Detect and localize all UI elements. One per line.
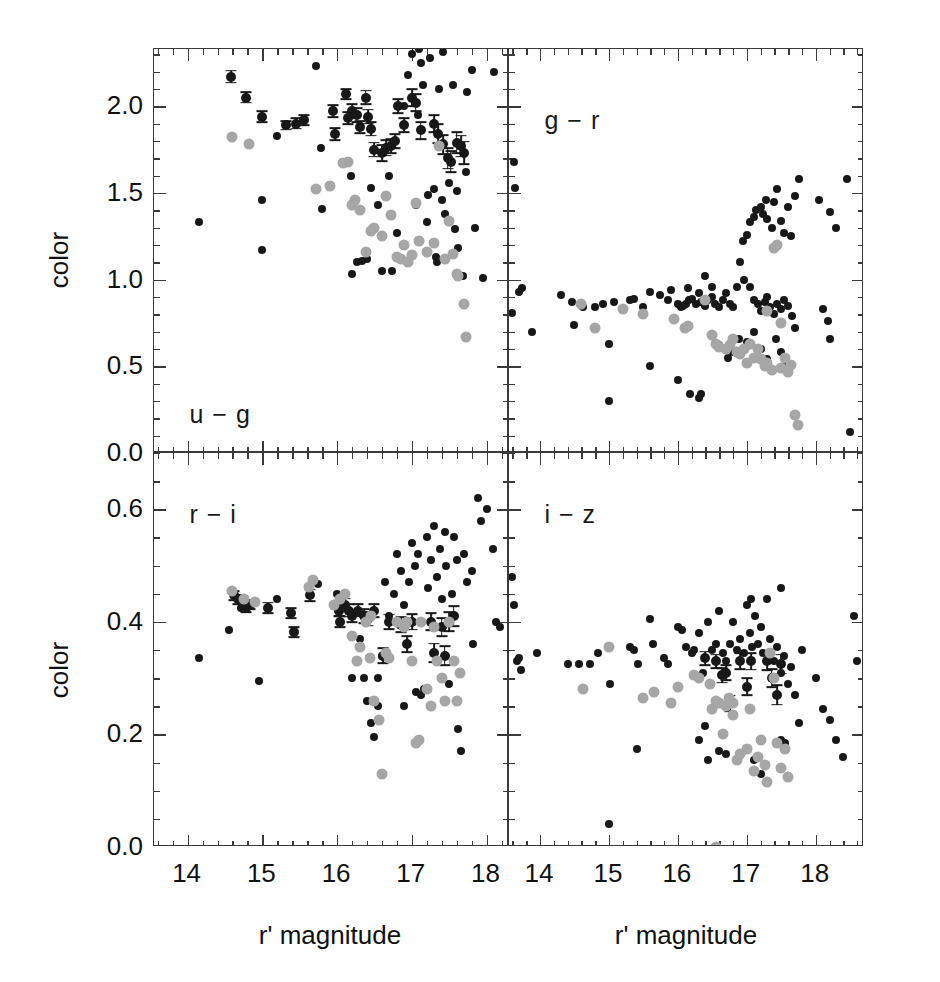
- x-tick-top: [247, 453, 248, 459]
- data-point: [390, 590, 398, 598]
- x-tick-top: [262, 49, 263, 61]
- y-tick-left: [154, 819, 160, 820]
- data-point: [400, 601, 408, 609]
- x-tick-bottom: [262, 835, 263, 846]
- x-tick-top: [526, 49, 527, 55]
- data-point: [772, 690, 782, 700]
- data-point: [722, 750, 730, 758]
- data-point: [605, 340, 613, 348]
- x-tick-bottom: [203, 841, 204, 846]
- error-bar-cap: [225, 82, 236, 84]
- plot-area: g − r: [509, 49, 862, 451]
- data-point: [777, 217, 785, 225]
- data-point: [459, 298, 470, 309]
- y-tick-label: 0.6: [75, 493, 143, 524]
- x-tick-top: [554, 49, 555, 55]
- y-tick-left: [509, 650, 515, 651]
- data-point: [697, 390, 705, 398]
- data-point: [427, 556, 435, 564]
- x-tick-top: [232, 453, 233, 459]
- data-point: [557, 291, 565, 299]
- x-tick-top: [568, 49, 569, 55]
- y-tick-right: [852, 622, 863, 623]
- x-tick-bottom: [678, 441, 679, 452]
- x-tick-label: 15: [593, 858, 622, 889]
- data-point: [736, 258, 744, 266]
- y-tick-right: [858, 418, 863, 419]
- x-tick-top: [788, 453, 789, 459]
- data-point: [406, 656, 417, 667]
- data-point: [780, 743, 791, 754]
- data-point: [367, 184, 375, 192]
- x-tick-top: [487, 49, 488, 61]
- y-tick-left: [509, 193, 521, 194]
- data-point: [243, 139, 254, 150]
- plot-panel-top-left: u − g: [153, 48, 508, 452]
- data-point: [763, 215, 771, 223]
- y-tick-left: [509, 678, 515, 679]
- y-tick-left: [154, 210, 160, 211]
- data-point: [739, 237, 747, 245]
- data-point: [416, 125, 426, 135]
- data-point: [510, 158, 518, 166]
- x-tick-top: [203, 453, 204, 459]
- x-tick-top: [487, 453, 488, 465]
- x-tick-bottom: [540, 441, 541, 452]
- x-axis-title-left: r' magnitude: [259, 920, 401, 951]
- x-tick-top: [637, 49, 638, 55]
- x-tick-top: [322, 453, 323, 459]
- x-tick-top: [733, 453, 734, 459]
- data-point: [441, 528, 449, 536]
- error-bar-cap: [406, 88, 417, 90]
- x-tick-top: [581, 49, 582, 55]
- data-point: [374, 674, 382, 682]
- data-point: [769, 673, 780, 684]
- x-tick-top: [277, 453, 278, 459]
- data-point: [785, 359, 796, 370]
- x-tick-top: [650, 49, 651, 55]
- x-tick-top: [595, 49, 596, 55]
- data-point: [695, 629, 703, 637]
- error-bar-cap: [429, 114, 440, 116]
- x-tick-top: [262, 453, 263, 465]
- x-tick-bottom: [442, 841, 443, 846]
- y-tick-left: [154, 418, 160, 419]
- data-point: [444, 616, 455, 627]
- data-point: [423, 533, 431, 541]
- error-bar-cap: [381, 155, 392, 157]
- data-point: [722, 657, 730, 665]
- data-point: [759, 760, 770, 771]
- x-tick-bottom: [472, 841, 473, 846]
- data-point: [762, 196, 770, 204]
- x-tick-top: [830, 49, 831, 55]
- data-point: [324, 180, 335, 191]
- error-bar-cap: [734, 668, 745, 670]
- data-point: [634, 660, 642, 668]
- y-tick-right: [852, 366, 863, 367]
- data-point: [750, 213, 758, 221]
- data-point: [599, 300, 607, 308]
- error-bar-cap: [329, 139, 340, 141]
- data-point: [469, 640, 477, 648]
- data-point: [605, 397, 613, 405]
- y-tick-left: [154, 678, 160, 679]
- x-tick-top: [554, 453, 555, 459]
- data-point: [490, 68, 498, 76]
- error-bar-cap: [415, 121, 426, 123]
- x-tick-top: [397, 49, 398, 55]
- error-bar-cap: [390, 147, 401, 149]
- data-point: [273, 595, 281, 603]
- data-point: [590, 323, 601, 334]
- data-point: [453, 187, 461, 195]
- x-tick-bottom: [554, 841, 555, 846]
- data-point: [617, 304, 628, 315]
- plot-panel-bottom-right: i − z: [508, 452, 863, 846]
- data-point: [812, 674, 820, 682]
- data-point: [438, 196, 446, 204]
- y-tick-left: [154, 193, 166, 194]
- data-point: [426, 701, 437, 712]
- data-point: [722, 289, 730, 297]
- data-point: [770, 198, 778, 206]
- data-point: [746, 283, 754, 291]
- data-point: [457, 747, 465, 755]
